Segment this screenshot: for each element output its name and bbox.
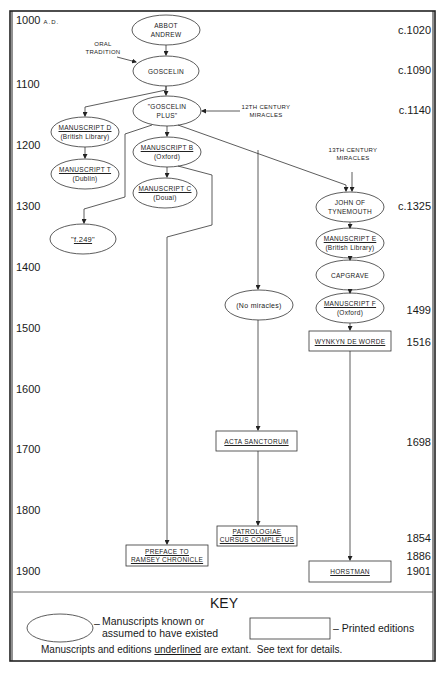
- note-label: 12TH CENTURY: [238, 103, 294, 111]
- key-text-line: Printed editions: [342, 622, 414, 634]
- node-sublabel: (Dublin): [72, 174, 97, 183]
- note-label: MIRACLES: [238, 111, 294, 119]
- node-label: MANUSCRIPT D: [59, 123, 112, 132]
- year-1400: 1400: [16, 261, 40, 273]
- node-no-miracles: (No miracles): [225, 290, 293, 320]
- node-sublabel: (Oxford): [337, 308, 363, 317]
- node-label: PATROLOGIAE: [233, 528, 282, 536]
- year-1500: 1500: [16, 322, 40, 334]
- node-label: CAPGRAVE: [331, 271, 369, 280]
- date-1516: 1516: [407, 336, 431, 348]
- node-label: ANDREW: [151, 30, 182, 39]
- node-label: f.249: [74, 235, 92, 244]
- node-label: ACTA SANCTORUM: [224, 437, 288, 446]
- note-oral-tradition: ORAL TRADITION: [83, 40, 123, 56]
- key-text-line: assumed to have existed: [94, 627, 218, 639]
- year-1200: 1200: [16, 139, 40, 151]
- stemma-diagram: 1000 A.D. 1100 1200 1300 1400 1500 1600 …: [0, 0, 448, 675]
- key-ellipse: [27, 614, 93, 642]
- date-c1090: c.1090: [398, 64, 431, 76]
- footer-text: Manuscripts and editions: [41, 644, 154, 655]
- key-box: [250, 618, 330, 639]
- note-13th-century-miracles: 13TH CENTURY MIRACLES: [325, 146, 381, 162]
- year-1600: 1600: [16, 383, 40, 395]
- node-label: MANUSCRIPT T: [59, 165, 111, 174]
- node-horstman: HORSTMAN: [309, 561, 391, 582]
- node-label: PLUS": [157, 111, 178, 120]
- footer-text: are extant. See text for details.: [201, 644, 342, 655]
- node-manuscript-b: MANUSCRIPT B (Oxford): [133, 137, 201, 167]
- node-sublabel: (Douai): [153, 193, 176, 202]
- node-john-of-tynemouth: JOHN OF TYNEMOUTH: [316, 192, 384, 222]
- year-1800: 1800: [16, 504, 40, 516]
- node-label: RAMSEY CHRONICLE: [131, 556, 203, 564]
- node-manuscript-e: MANUSCRIPT E (British Library): [316, 228, 384, 258]
- year-1900: 1900: [16, 565, 40, 577]
- node-label: ABBOT: [154, 21, 178, 30]
- date-c1325: c.1325: [398, 200, 431, 212]
- node-manuscript-c: MANUSCRIPT C (Douai): [133, 178, 197, 208]
- node-label: TYNEMOUTH: [328, 207, 372, 216]
- node-patrologiae: PATROLOGIAE CURSUS COMPLETUS: [217, 526, 297, 546]
- year-1000: 1000 A.D.: [16, 14, 59, 26]
- year-1100: 1100: [16, 78, 40, 90]
- node-f249: "f.249": [50, 224, 116, 254]
- date-1499: 1499: [407, 304, 431, 316]
- date-1886: 1886: [407, 550, 431, 562]
- note-label: ORAL: [83, 40, 123, 48]
- node-sublabel: (Oxford): [154, 152, 180, 161]
- node-manuscript-f: MANUSCRIPT F (Oxford): [316, 293, 384, 323]
- node-label: HORSTMAN: [330, 567, 370, 576]
- node-wynkyn-de-worde: WYNKYN DE WORDE: [309, 331, 391, 351]
- node-capgrave: CAPGRAVE: [316, 260, 384, 290]
- node-label: MANUSCRIPT E: [324, 234, 377, 243]
- node-label: (No miracles): [236, 301, 282, 310]
- node-manuscript-d: MANUSCRIPT D (British Library): [51, 117, 119, 147]
- note-label: MIRACLES: [325, 154, 381, 162]
- quote-mark: ": [92, 235, 95, 244]
- date-1854: 1854: [407, 532, 431, 544]
- key-dash: –: [94, 617, 100, 629]
- node-manuscript-t: MANUSCRIPT T (Dublin): [51, 159, 119, 189]
- node-label: WYNKYN DE WORDE: [315, 337, 386, 346]
- note-label: TRADITION: [83, 48, 123, 56]
- key-ellipse-description: Manuscripts known or assumed to have exi…: [94, 615, 218, 639]
- date-c1020: c.1020: [398, 24, 431, 36]
- node-label: GOSCELIN: [148, 67, 184, 76]
- node-label: JOHN OF: [335, 198, 366, 207]
- node-label: PREFACE TO: [145, 548, 189, 556]
- node-label: "GOSCELIN: [148, 102, 187, 111]
- node-sublabel: (British Library): [60, 132, 109, 141]
- note-label: 13TH CENTURY: [325, 146, 381, 154]
- date-1698: 1698: [407, 436, 431, 448]
- footer-underlined-word: underlined: [154, 644, 201, 655]
- date-c1140: c.1140: [399, 104, 431, 116]
- key-box-description: – Printed editions: [333, 622, 414, 634]
- node-label: MANUSCRIPT F: [324, 299, 376, 308]
- node-label: MANUSCRIPT B: [141, 143, 194, 152]
- key-text-line: Manuscripts known or: [94, 615, 218, 627]
- date-1901: 1901: [407, 565, 431, 577]
- node-preface-ramsey: PREFACE TO RAMSEY CHRONICLE: [126, 545, 208, 566]
- node-acta-sanctorum: ACTA SANCTORUM: [216, 431, 297, 451]
- note-12th-century-miracles: 12TH CENTURY MIRACLES: [238, 103, 294, 119]
- key-footer: Manuscripts and editions underlined are …: [41, 644, 342, 656]
- node-abbot-andrew: ABBOT ANDREW: [132, 15, 200, 45]
- node-sublabel: (British Library): [325, 243, 374, 252]
- year-1700: 1700: [16, 443, 40, 455]
- year-1300: 1300: [16, 200, 40, 212]
- key-title: KEY: [210, 595, 238, 611]
- node-label: CURSUS COMPLETUS: [220, 536, 295, 544]
- node-goscelin-plus: "GOSCELIN PLUS": [133, 96, 201, 126]
- node-goscelin: GOSCELIN: [133, 56, 199, 86]
- node-label: MANUSCRIPT C: [139, 184, 192, 193]
